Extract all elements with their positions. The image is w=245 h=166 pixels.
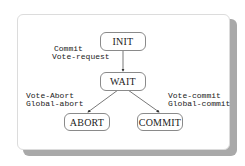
action-vote-request: Vote-request — [52, 53, 110, 61]
transition-label-wait-abort: Vote-Abort Global-abort — [26, 92, 84, 108]
state-init-label: INIT — [113, 36, 134, 47]
state-commit: COMMIT — [137, 113, 183, 131]
state-wait: WAIT — [100, 72, 146, 91]
transition-label-init-wait: Commit Vote-request — [52, 45, 110, 61]
state-abort: ABORT — [64, 113, 110, 131]
transition-label-wait-commit: Vote-commit Global-commit — [168, 92, 230, 108]
state-abort-label: ABORT — [70, 117, 104, 128]
state-wait-label: WAIT — [110, 76, 136, 87]
action-global-commit: Global-commit — [168, 100, 230, 108]
action-global-abort: Global-abort — [26, 100, 84, 108]
state-commit-label: COMMIT — [139, 117, 181, 128]
